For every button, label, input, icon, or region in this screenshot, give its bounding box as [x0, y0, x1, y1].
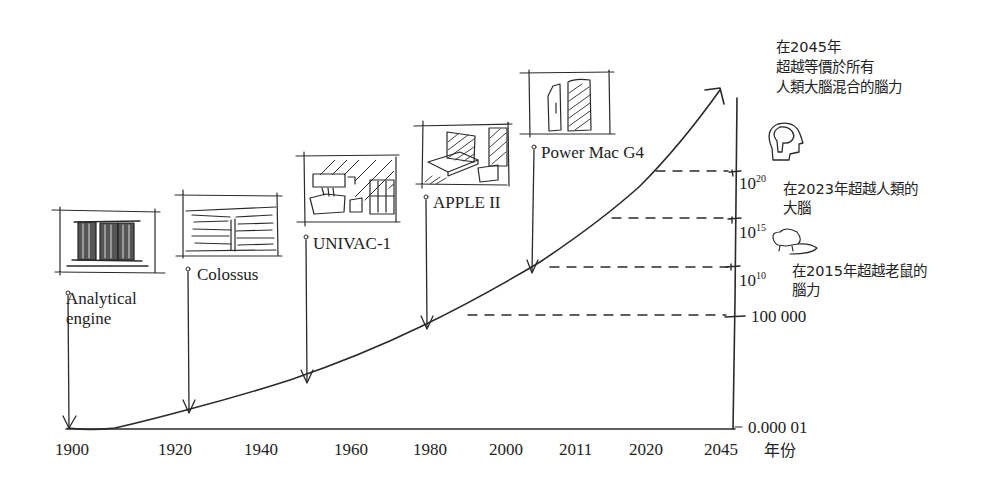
- y-tick-100000: 100 000: [751, 308, 806, 325]
- title-line-3: 人類大腦混合的腦力: [776, 77, 902, 97]
- label-analytical-engine-line2: engine: [66, 309, 137, 329]
- label-analytical-engine-line1: Analytical: [66, 289, 137, 309]
- label-colossus: Colossus: [197, 265, 258, 285]
- arrow-power-mac-g4: [527, 145, 538, 273]
- title-line-1: 在2045年: [776, 37, 902, 57]
- annotation-mouse-brain: 在2015年超越老鼠的 腦力: [792, 262, 927, 300]
- x-tick-1920: 1920: [158, 441, 192, 458]
- colossus-sketch-icon: [175, 190, 282, 258]
- x-axis-label: 年份: [764, 441, 796, 462]
- annotation-human-brain-line1: 在2023年超越人類的: [783, 180, 918, 199]
- annotation-human-brain: 在2023年超越人類的 大腦: [783, 180, 918, 218]
- human-head-brain-icon: [769, 123, 803, 160]
- title-annotation: 在2045年 超越等價於所有 人類大腦混合的腦力: [776, 37, 902, 97]
- curve-arrowhead-icon: [705, 88, 724, 104]
- annotation-mouse-brain-line1: 在2015年超越老鼠的: [792, 262, 927, 281]
- arrow-apple-ii: [421, 195, 433, 329]
- annotation-mouse-brain-line2: 腦力: [792, 281, 927, 300]
- y-axis-line: [733, 98, 737, 429]
- x-tick-2011: 2011: [559, 441, 592, 458]
- univac-1-sketch-icon: [296, 152, 404, 226]
- apple-ii-sketch-icon: [414, 121, 512, 188]
- power-mac-g4-sketch-icon: [520, 70, 615, 137]
- y-tick-10-15: 1015: [739, 223, 766, 241]
- x-tick-2000: 2000: [489, 441, 523, 458]
- growth-curve: [68, 90, 720, 430]
- y-tick-0-00001: 0.000 01: [748, 419, 808, 436]
- x-tick-2020: 2020: [629, 441, 663, 458]
- x-tick-2045: 2045: [704, 441, 738, 458]
- x-tick-1900: 1900: [55, 441, 89, 458]
- x-tick-1940: 1940: [244, 441, 278, 458]
- arrow-univac-1: [301, 235, 313, 383]
- y-tick-10-10: 1010: [739, 271, 766, 289]
- annotation-human-brain-line2: 大腦: [783, 199, 918, 218]
- mouse-icon: [773, 229, 817, 254]
- label-analytical-engine: Analytical engine: [66, 289, 137, 328]
- x-tick-1980: 1980: [413, 441, 447, 458]
- label-power-mac-g4: Power Mac G4: [541, 143, 644, 163]
- arrow-colossus: [183, 267, 195, 413]
- analytical-engine-sketch-icon: [52, 207, 165, 275]
- y-tick-10-20: 1020: [739, 174, 766, 192]
- x-tick-1960: 1960: [334, 441, 368, 458]
- label-univac-1: UNIVAC-1: [313, 234, 391, 254]
- title-line-2: 超越等價於所有: [776, 57, 902, 77]
- label-apple-ii: APPLE II: [433, 193, 501, 213]
